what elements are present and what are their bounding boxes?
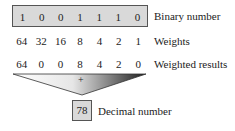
decimal-number-label: Decimal number — [98, 100, 172, 122]
decimal-value-box: 78 — [72, 100, 92, 121]
plus-sign: + — [78, 74, 84, 86]
